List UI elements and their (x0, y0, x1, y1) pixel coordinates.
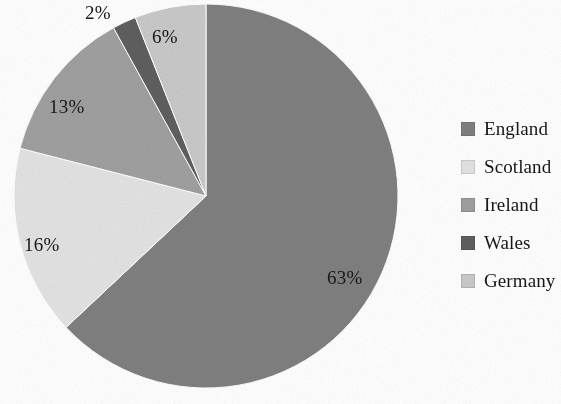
legend-item-scotland[interactable]: Scotland (461, 148, 557, 186)
legend-swatch-england (461, 122, 475, 136)
slice-label-germany: 6% (152, 26, 178, 48)
slice-label-ireland: 13% (49, 96, 84, 118)
legend-swatch-germany (461, 274, 475, 288)
pie-slices (14, 4, 398, 388)
pie-chart-plot-area (10, 0, 406, 396)
legend-label-england: England (484, 118, 548, 140)
pie-svg (10, 0, 406, 396)
legend-swatch-ireland (461, 198, 475, 212)
legend-item-wales[interactable]: Wales (461, 224, 557, 262)
legend-label-ireland: Ireland (484, 194, 539, 216)
legend-label-germany: Germany (484, 270, 555, 292)
legend-item-germany[interactable]: Germany (461, 262, 557, 300)
legend-label-wales: Wales (484, 232, 530, 254)
chart-legend: EnglandScotlandIrelandWalesGermany (461, 110, 557, 300)
slice-label-scotland: 16% (24, 234, 59, 256)
legend-swatch-scotland (461, 160, 475, 174)
slice-label-england: 63% (327, 267, 362, 289)
slice-label-wales: 2% (85, 2, 111, 24)
legend-item-england[interactable]: England (461, 110, 557, 148)
pie-chart-figure: 63% 16% 13% 2% 6% EnglandScotlandIreland… (0, 0, 561, 404)
legend-item-ireland[interactable]: Ireland (461, 186, 557, 224)
legend-label-scotland: Scotland (484, 156, 551, 178)
legend-swatch-wales (461, 236, 475, 250)
